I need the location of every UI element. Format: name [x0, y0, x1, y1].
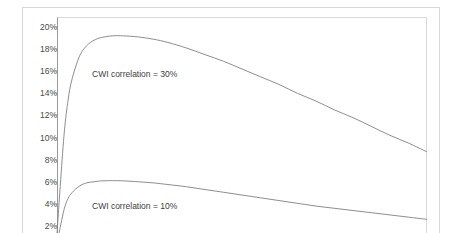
series-annotation: CWI correlation = 30%: [92, 69, 177, 79]
series-annotation: CWI correlation = 10%: [92, 201, 177, 211]
chart-screenshot: 20%18%16%14%12%10%8%6%4%2% CWI correlati…: [0, 0, 463, 233]
curve-layer: [0, 0, 463, 233]
